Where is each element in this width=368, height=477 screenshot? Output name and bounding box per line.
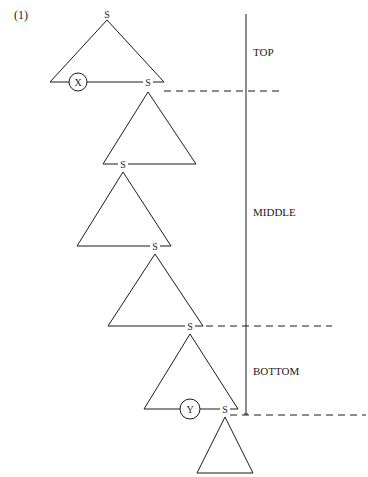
region-label-bottom: BOTTOM (253, 365, 299, 377)
figure-number: (1) (14, 8, 28, 22)
triangle-3: S (77, 172, 171, 252)
triangle-2: S (103, 92, 196, 170)
root-s-node: S (104, 9, 110, 20)
region-label-middle: MIDDLE (253, 206, 296, 218)
region-label-top: TOP (253, 46, 274, 58)
t4-base-s-node: S (187, 321, 193, 332)
y-marker-label: Y (186, 404, 193, 415)
t2-base-s-node: S (120, 159, 126, 170)
triangle-1: S X S (50, 9, 164, 91)
triangle-5: Y S (144, 334, 238, 419)
t5-base-s-node: S (222, 404, 228, 415)
x-marker-label: X (74, 77, 82, 88)
triangle-4: S (108, 254, 203, 332)
tree-diagram: (1) S X S S S S Y S (0, 0, 368, 477)
t3-base-s-node: S (152, 241, 158, 252)
t1-base-s-node: S (145, 77, 151, 88)
triangle-6 (197, 417, 253, 473)
